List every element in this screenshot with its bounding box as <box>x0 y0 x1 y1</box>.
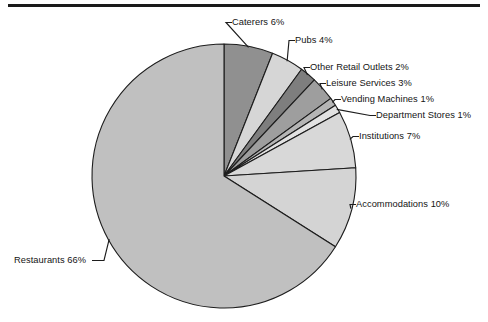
pie-label-institutions: Institutions 7% <box>359 131 420 142</box>
pie-label-leisure-services: Leisure Services 3% <box>326 78 412 89</box>
pie-slices-group <box>92 44 356 308</box>
leader-line <box>92 239 109 260</box>
chart-page: Caterers 6% Pubs 4% Other Retail Outlets… <box>0 0 488 322</box>
pie-label-other-retail-outlets: Other Retail Outlets 2% <box>310 62 409 73</box>
pie-label-accommodations: Accommodations 10% <box>356 199 449 210</box>
leader-line <box>337 109 376 115</box>
pie-chart-graphic <box>0 0 488 322</box>
pie-label-pubs: Pubs 4% <box>295 35 333 46</box>
pie-label-restaurants: Restaurants 66% <box>14 255 86 266</box>
pie-label-caterers: Caterers 6% <box>232 17 284 28</box>
leader-line <box>287 41 295 62</box>
pie-label-department-stores: Department Stores 1% <box>376 110 471 121</box>
pie-label-vending-machines: Vending Machines 1% <box>341 94 434 105</box>
